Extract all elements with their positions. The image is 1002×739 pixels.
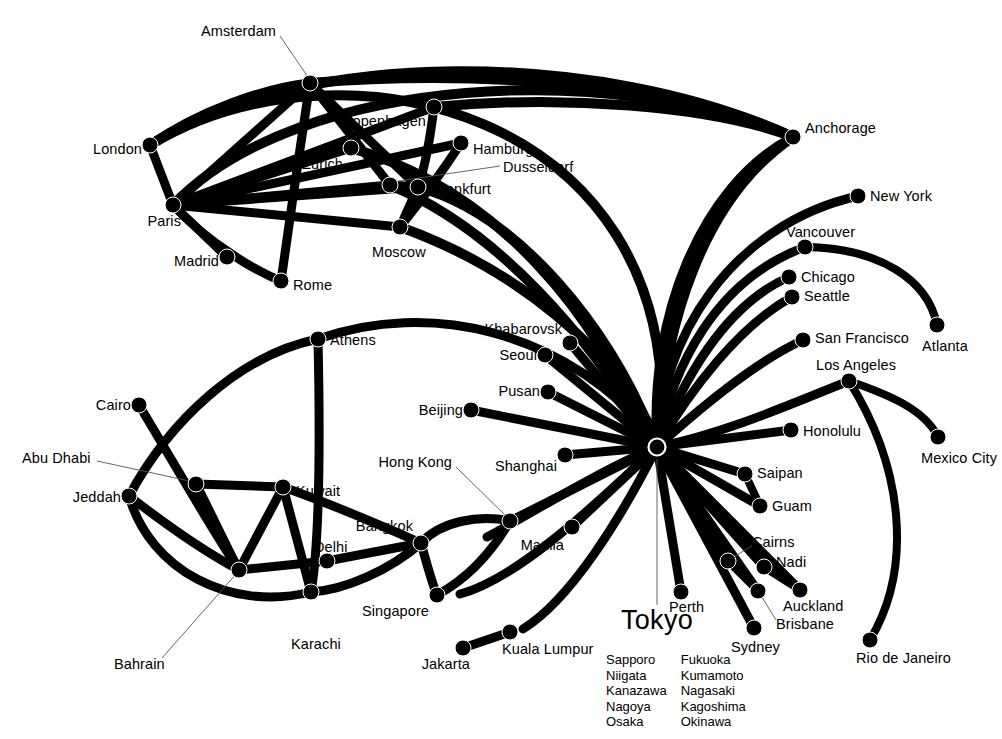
city-label-shanghai: Shanghai bbox=[495, 459, 557, 474]
city-label-abudhabi: Abu Dhabi bbox=[22, 451, 91, 466]
city-node-saipan[interactable] bbox=[737, 466, 753, 482]
city-node-paris[interactable] bbox=[165, 197, 181, 213]
city-node-sanfrancisco[interactable] bbox=[795, 332, 811, 348]
city-node-anchorage[interactable] bbox=[785, 129, 801, 145]
city-node-losangeles[interactable] bbox=[841, 373, 857, 389]
city-label-seattle: Seattle bbox=[804, 289, 850, 304]
route-losangeles-riodejaneiro bbox=[849, 381, 897, 640]
city-node-singapore[interactable] bbox=[429, 587, 445, 603]
route-jeddah-athens bbox=[129, 339, 318, 496]
city-node-athens[interactable] bbox=[310, 331, 326, 347]
city-node-amsterdam[interactable] bbox=[302, 75, 318, 91]
city-node-nadi[interactable] bbox=[756, 559, 772, 575]
city-label-newyork: New York bbox=[870, 189, 932, 204]
city-node-auckland[interactable] bbox=[792, 582, 808, 598]
city-node-newyork[interactable] bbox=[850, 188, 866, 204]
route-copenhagen-anchorage bbox=[434, 102, 793, 137]
city-node-seattle[interactable] bbox=[784, 289, 800, 305]
leader-line-amsterdam bbox=[280, 36, 310, 80]
city-node-jeddah[interactable] bbox=[121, 488, 137, 504]
hub-node-tokyo[interactable] bbox=[649, 439, 666, 456]
city-node-khabarovsk[interactable] bbox=[562, 335, 578, 351]
city-node-brisbane[interactable] bbox=[750, 583, 766, 599]
city-label-atlanta: Atlanta bbox=[922, 339, 968, 354]
city-label-london: London bbox=[93, 142, 142, 157]
city-node-atlanta[interactable] bbox=[929, 317, 945, 333]
route-hongkong-singapore bbox=[437, 521, 510, 595]
city-node-bangkok[interactable] bbox=[413, 535, 429, 551]
city-node-abudhabi[interactable] bbox=[188, 476, 204, 492]
city-node-vancouver[interactable] bbox=[797, 239, 813, 255]
city-node-mexicocity[interactable] bbox=[930, 429, 946, 445]
city-label-sanfrancisco: San Francisco bbox=[815, 331, 909, 346]
route-map-diagram: AmsterdamLondonCopenhagenZurichHamburgDu… bbox=[0, 0, 1002, 739]
city-label-khabarovsk: Khabarovsk bbox=[484, 322, 562, 337]
city-label-saipan: Saipan bbox=[757, 466, 803, 481]
city-node-karachi[interactable] bbox=[303, 584, 319, 600]
city-label-athens: Athens bbox=[330, 333, 376, 348]
city-node-moscow[interactable] bbox=[392, 219, 408, 235]
city-node-frankfurt[interactable] bbox=[410, 179, 426, 195]
city-node-kualalumpur[interactable] bbox=[502, 624, 518, 640]
city-node-cairns[interactable] bbox=[720, 553, 736, 569]
city-node-manila[interactable] bbox=[564, 519, 580, 535]
route-vancouver-atlanta bbox=[805, 247, 937, 325]
domestic-column-1: SapporoNiigataKanazawaNagoyaOsaka bbox=[606, 652, 667, 730]
domestic-city-a-2: Kanazawa bbox=[606, 683, 667, 699]
city-label-anchorage: Anchorage bbox=[805, 121, 876, 136]
city-node-guam[interactable] bbox=[752, 498, 768, 514]
city-node-jakarta[interactable] bbox=[455, 640, 471, 656]
city-label-delhi: Delhi bbox=[314, 540, 348, 555]
domestic-city-b-2: Nagasaki bbox=[681, 683, 746, 699]
domestic-column-2: FukuokaKumamotoNagasakiKagoshimaOkinawa bbox=[681, 652, 746, 730]
city-node-beijing[interactable] bbox=[463, 402, 479, 418]
domestic-city-a-0: Sapporo bbox=[606, 652, 667, 668]
city-node-chicago[interactable] bbox=[781, 269, 797, 285]
city-node-pusan[interactable] bbox=[540, 384, 556, 400]
city-node-london[interactable] bbox=[142, 137, 158, 153]
city-label-dusseldorf: Dusseldorf bbox=[503, 160, 573, 175]
city-node-zurich[interactable] bbox=[343, 140, 359, 156]
domestic-city-b-0: Fukuoka bbox=[681, 652, 746, 668]
city-label-vancouver: Vancouver bbox=[786, 225, 855, 240]
domestic-city-b-1: Kumamoto bbox=[681, 668, 746, 684]
city-label-bangkok: Bangkok bbox=[356, 519, 413, 534]
city-label-nadi: Nadi bbox=[776, 555, 806, 570]
city-label-amsterdam: Amsterdam bbox=[201, 24, 276, 39]
city-label-moscow: Moscow bbox=[372, 245, 426, 260]
city-label-beijing: Beijing bbox=[419, 403, 463, 418]
city-label-zurich: Zurich bbox=[302, 157, 343, 172]
city-node-perth[interactable] bbox=[673, 584, 689, 600]
city-node-cairo[interactable] bbox=[131, 397, 147, 413]
city-label-hamburg: Hamburg bbox=[473, 142, 533, 157]
city-node-riodejaneiro[interactable] bbox=[862, 632, 878, 648]
city-label-paris: Paris bbox=[147, 214, 181, 229]
city-node-kuwait[interactable] bbox=[275, 479, 291, 495]
city-node-dusseldorf[interactable] bbox=[382, 177, 398, 193]
city-node-honolulu[interactable] bbox=[783, 422, 799, 438]
city-node-hongkong[interactable] bbox=[502, 513, 518, 529]
route-london-paris bbox=[150, 145, 173, 205]
city-label-chicago: Chicago bbox=[801, 270, 855, 285]
city-label-frankfurt: Frankfurt bbox=[432, 182, 491, 197]
city-label-riodejaneiro: Rio de Janeiro bbox=[856, 651, 951, 666]
city-label-kuwait: Kuwait bbox=[296, 484, 340, 499]
domestic-city-a-4: Osaka bbox=[606, 714, 667, 730]
city-label-singapore: Singapore bbox=[362, 604, 429, 619]
domestic-city-a-1: Niigata bbox=[606, 668, 667, 684]
city-label-kualalumpur: Kuala Lumpur bbox=[502, 642, 593, 657]
city-label-seoul: Seoul bbox=[499, 348, 537, 363]
city-node-bahrain[interactable] bbox=[231, 562, 247, 578]
city-node-delhi[interactable] bbox=[319, 553, 335, 569]
city-node-copenhagen[interactable] bbox=[426, 99, 442, 115]
city-node-madrid[interactable] bbox=[219, 249, 235, 265]
city-label-madrid: Madrid bbox=[174, 254, 219, 269]
city-node-hamburg[interactable] bbox=[453, 135, 469, 151]
city-node-sydney[interactable] bbox=[746, 620, 762, 636]
route-kuwait-bahrain bbox=[239, 487, 283, 570]
city-label-cairns: Cairns bbox=[752, 535, 795, 550]
city-node-rome[interactable] bbox=[273, 273, 289, 289]
route-kuwait-karachi bbox=[283, 487, 311, 592]
city-node-shanghai[interactable] bbox=[557, 447, 573, 463]
city-node-seoul[interactable] bbox=[537, 347, 553, 363]
